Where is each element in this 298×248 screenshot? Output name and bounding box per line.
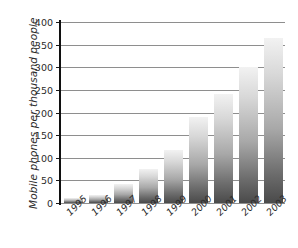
- y-axis-tick-label: 0: [47, 198, 53, 209]
- bar-chart: Mobile phones per thousand people 050100…: [0, 0, 298, 248]
- y-axis-tick-label: 100: [35, 152, 53, 163]
- y-axis-tick-label: 400: [35, 17, 53, 28]
- bar: [189, 117, 208, 203]
- bar: [214, 94, 233, 203]
- bar: [239, 67, 258, 203]
- y-axis-tick-label: 150: [35, 130, 53, 141]
- y-axis-tick-label: 250: [35, 84, 53, 95]
- bars: [60, 22, 285, 203]
- x-axis-tick-labels: 199519961997199819992000200120022003: [60, 204, 285, 248]
- plot-area: 050100150200250300350400: [60, 22, 285, 203]
- y-axis-tick-label: 300: [35, 62, 53, 73]
- bar: [264, 38, 283, 203]
- y-axis-tick-label: 50: [41, 175, 53, 186]
- y-axis-tick-label: 200: [35, 107, 53, 118]
- y-axis-tick-label: 350: [35, 39, 53, 50]
